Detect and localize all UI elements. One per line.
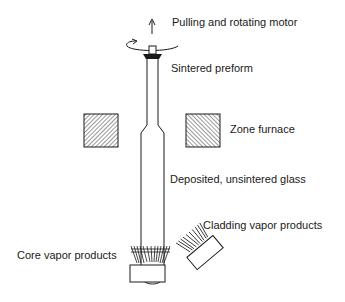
deposited-glass-label: Deposited, unsintered glass bbox=[170, 173, 306, 185]
motor-shaft bbox=[149, 46, 156, 54]
sintered-preform-label: Sintered preform bbox=[171, 62, 253, 74]
motor-label: Pulling and rotating motor bbox=[172, 16, 297, 28]
furnace-right bbox=[186, 114, 220, 147]
cladding-torch bbox=[187, 235, 223, 269]
cladding-vapor-label: Cladding vapor products bbox=[203, 219, 322, 231]
furnace-left bbox=[84, 114, 118, 147]
zone-furnace-label: Zone furnace bbox=[230, 123, 295, 135]
preform-holder bbox=[143, 54, 162, 59]
core-vapor-label: Core vapor products bbox=[17, 249, 117, 261]
core-torch bbox=[130, 265, 165, 282]
up-arrow-icon bbox=[149, 19, 155, 34]
